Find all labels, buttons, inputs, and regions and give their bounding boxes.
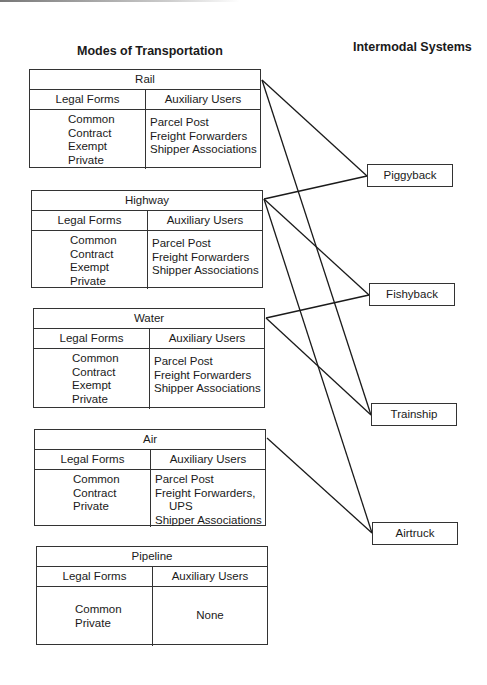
auxiliary-users-column: Auxiliary Users None xyxy=(153,567,267,646)
auxiliary-user: Parcel Post xyxy=(150,116,260,130)
legal-forms-list: Common Contract Private xyxy=(35,470,150,514)
mode-box-water: Water Legal Forms Common Contract Exempt… xyxy=(33,308,265,408)
auxiliary-user: Shipper Associations xyxy=(152,264,262,278)
mode-title: Pipeline xyxy=(37,547,267,567)
legal-form: Exempt xyxy=(72,379,149,393)
legal-forms-list: Common Contract Exempt Private xyxy=(34,349,149,406)
legal-forms-list: Common Contract Exempt Private xyxy=(32,231,147,288)
legal-forms-header: Legal Forms xyxy=(30,90,145,110)
auxiliary-user: Shipper Associations xyxy=(155,514,265,528)
mode-title: Air xyxy=(35,430,265,450)
legal-forms-list: Common Contract Exempt Private xyxy=(30,110,145,167)
legal-form: Private xyxy=(68,154,145,168)
line-water-fishyback xyxy=(266,295,369,318)
auxiliary-users-header: Auxiliary Users xyxy=(153,567,267,587)
legal-forms-column: Legal Forms Common Contract Exempt Priva… xyxy=(32,211,148,289)
legal-form: Common xyxy=(70,234,147,248)
auxiliary-users-column: Auxiliary Users Parcel Post Freight Forw… xyxy=(151,450,265,527)
auxiliary-user: Parcel Post xyxy=(154,355,264,369)
legal-form: Private xyxy=(73,500,150,514)
auxiliary-users-header: Auxiliary Users xyxy=(146,90,260,110)
legal-form: Private xyxy=(70,275,147,289)
legal-form: Private xyxy=(72,393,149,407)
legal-form: Contract xyxy=(68,127,145,141)
mode-box-rail: Rail Legal Forms Common Contract Exempt … xyxy=(29,69,261,168)
mode-title: Water xyxy=(34,309,264,329)
intermodal-box-piggyback: Piggyback xyxy=(367,164,453,187)
auxiliary-user: None xyxy=(153,609,267,623)
legal-forms-header: Legal Forms xyxy=(32,211,147,231)
legal-form: Common xyxy=(73,473,150,487)
auxiliary-users-header: Auxiliary Users xyxy=(151,450,265,470)
legal-form: Private xyxy=(75,617,152,631)
legal-form: Contract xyxy=(72,366,149,380)
auxiliary-user: Freight Forwarders xyxy=(154,369,264,383)
auxiliary-users-list: Parcel Post Freight Forwarders, UPS Ship… xyxy=(151,470,265,527)
legal-form: Common xyxy=(75,603,152,617)
auxiliary-user: UPS xyxy=(155,500,265,514)
auxiliary-users-list: Parcel Post Freight Forwarders Shipper A… xyxy=(148,231,262,278)
auxiliary-user: Freight Forwarders, xyxy=(155,487,265,501)
auxiliary-user: Parcel Post xyxy=(155,473,265,487)
auxiliary-users-column: Auxiliary Users Parcel Post Freight Forw… xyxy=(150,329,264,409)
legal-form: Common xyxy=(72,352,149,366)
intermodal-box-airtruck: Airtruck xyxy=(372,522,458,545)
mode-box-air: Air Legal Forms Common Contract Private … xyxy=(34,429,266,526)
legal-form: Exempt xyxy=(68,140,145,154)
auxiliary-users-header: Auxiliary Users xyxy=(148,211,262,231)
line-highway-piggyback xyxy=(264,176,367,199)
legal-form: Contract xyxy=(70,248,147,262)
auxiliary-user: Shipper Associations xyxy=(150,143,260,157)
auxiliary-users-list: None xyxy=(153,587,267,623)
auxiliary-user: Shipper Associations xyxy=(154,382,264,396)
mode-box-pipeline: Pipeline Legal Forms Common Private Auxi… xyxy=(36,546,268,645)
legal-forms-list: Common Private xyxy=(37,587,152,630)
mode-title: Highway xyxy=(32,191,262,211)
legal-forms-column: Legal Forms Common Contract Private xyxy=(35,450,151,527)
auxiliary-users-header: Auxiliary Users xyxy=(150,329,264,349)
auxiliary-user: Freight Forwarders xyxy=(152,251,262,265)
legal-form: Contract xyxy=(73,487,150,501)
legal-form: Common xyxy=(68,113,145,127)
legal-forms-header: Legal Forms xyxy=(37,567,152,587)
auxiliary-users-column: Auxiliary Users Parcel Post Freight Forw… xyxy=(148,211,262,289)
mode-box-highway: Highway Legal Forms Common Contract Exem… xyxy=(31,190,263,288)
mode-title: Rail xyxy=(30,70,260,90)
intermodal-box-fishyback: Fishyback xyxy=(369,283,455,306)
auxiliary-user: Parcel Post xyxy=(152,237,262,251)
legal-forms-column: Legal Forms Common Private xyxy=(37,567,153,646)
intermodal-box-trainship: Trainship xyxy=(371,403,457,426)
legal-forms-header: Legal Forms xyxy=(34,329,149,349)
legal-form: Exempt xyxy=(70,261,147,275)
auxiliary-users-list: Parcel Post Freight Forwarders Shipper A… xyxy=(150,349,264,396)
legal-forms-column: Legal Forms Common Contract Exempt Priva… xyxy=(34,329,150,409)
auxiliary-users-list: Parcel Post Freight Forwarders Shipper A… xyxy=(146,110,260,157)
auxiliary-users-column: Auxiliary Users Parcel Post Freight Forw… xyxy=(146,90,260,169)
legal-forms-header: Legal Forms xyxy=(35,450,150,470)
legal-forms-column: Legal Forms Common Contract Exempt Priva… xyxy=(30,90,146,169)
auxiliary-user: Freight Forwarders xyxy=(150,130,260,144)
